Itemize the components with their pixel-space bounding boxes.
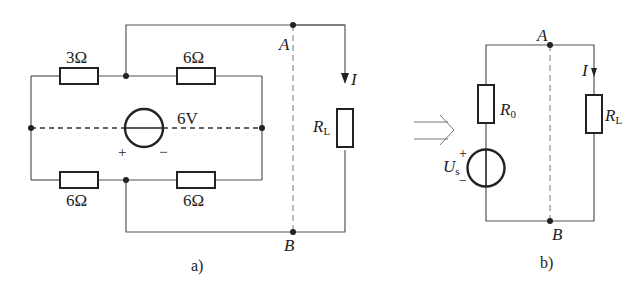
- resistor-3ohm-top-left: [60, 68, 98, 84]
- figure-b: A B I R0 RL Us + − b): [443, 26, 622, 272]
- svg-text:B: B: [284, 236, 295, 255]
- label-6ohm-top: 6Ω: [183, 48, 204, 67]
- figure-a: 3Ω 6Ω 6Ω 6Ω 6V + − A B I RL a): [28, 22, 358, 275]
- resistor-load-a: [337, 109, 353, 147]
- label-3ohm: 3Ω: [66, 48, 87, 67]
- resistor-6ohm-top-right: [177, 68, 215, 84]
- svg-text:−: −: [159, 144, 167, 160]
- label-r0: R0: [499, 100, 516, 120]
- resistor-6ohm-bottom-right: [177, 172, 215, 188]
- svg-text:A: A: [278, 35, 290, 54]
- caption-a: a): [191, 257, 203, 275]
- resistor-6ohm-bottom-left: [60, 172, 98, 188]
- current-arrow-icon: [591, 68, 597, 77]
- svg-text:+: +: [459, 146, 467, 161]
- svg-text:B: B: [552, 225, 563, 244]
- svg-text:A: A: [536, 26, 548, 45]
- wire-top: [126, 25, 345, 76]
- svg-text:I: I: [581, 61, 589, 80]
- node-b: [290, 229, 296, 235]
- resistor-load-b: [586, 95, 602, 133]
- circuit-diagram: 3Ω 6Ω 6Ω 6Ω 6V + − A B I RL a): [0, 0, 637, 292]
- node-b-b: [547, 218, 553, 224]
- label-rl-b: RL: [604, 106, 622, 126]
- label-6ohm-bottom-left: 6Ω: [66, 191, 87, 210]
- resistor-r0: [478, 85, 494, 123]
- svg-text:+: +: [118, 144, 126, 160]
- wire-bottom: [126, 150, 345, 232]
- current-arrow-icon: [341, 73, 349, 84]
- equivalent-arrow-icon: [414, 115, 454, 145]
- label-rl-a: RL: [312, 117, 330, 137]
- svg-text:−: −: [459, 173, 467, 188]
- label-us: Us: [443, 157, 460, 177]
- node-a-b: [547, 42, 553, 48]
- node-a: [290, 22, 296, 28]
- label-6v: 6V: [177, 109, 199, 128]
- label-6ohm-bottom-right: 6Ω: [183, 191, 204, 210]
- svg-text:I: I: [350, 70, 358, 89]
- caption-b: b): [540, 254, 553, 272]
